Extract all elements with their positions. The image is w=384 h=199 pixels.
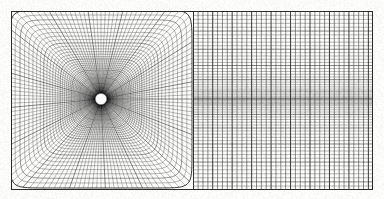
computational-mesh-canvas bbox=[0, 0, 384, 199]
mesh-figure bbox=[0, 0, 384, 199]
